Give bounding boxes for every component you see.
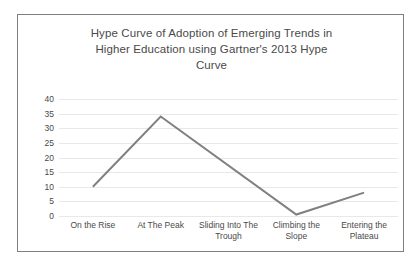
gridline bbox=[59, 216, 398, 217]
x-axis-tick-label: On the Rise bbox=[59, 220, 127, 242]
x-axis-tick-label: Sliding Into TheTrough bbox=[195, 220, 263, 242]
y-axis-tick-label: 5 bbox=[18, 196, 54, 206]
line-series bbox=[59, 99, 398, 216]
x-axis-tick-label: Entering thePlateau bbox=[330, 220, 398, 242]
hype-curve-line bbox=[93, 117, 364, 215]
chart-container: Hype Curve of Adoption of Emerging Trend… bbox=[17, 14, 404, 252]
y-axis-tick-label: 15 bbox=[18, 167, 54, 177]
x-axis-tick-label: Climbing theSlope bbox=[262, 220, 330, 242]
y-axis-tick-label: 20 bbox=[18, 153, 54, 163]
y-axis-tick-label: 35 bbox=[18, 109, 54, 119]
plot-wrapper: 0510152025303540 On the RiseAt The PeakS… bbox=[18, 15, 403, 251]
y-axis-tick-label: 40 bbox=[18, 94, 54, 104]
plot-area bbox=[59, 99, 398, 216]
y-axis-tick-label: 25 bbox=[18, 138, 54, 148]
x-axis: On the RiseAt The PeakSliding Into TheTr… bbox=[59, 220, 398, 242]
y-axis-tick-label: 10 bbox=[18, 182, 54, 192]
y-axis-tick-label: 30 bbox=[18, 123, 54, 133]
y-axis: 0510152025303540 bbox=[18, 99, 54, 216]
y-axis-tick-label: 0 bbox=[18, 211, 54, 221]
x-axis-tick-label: At The Peak bbox=[127, 220, 195, 242]
